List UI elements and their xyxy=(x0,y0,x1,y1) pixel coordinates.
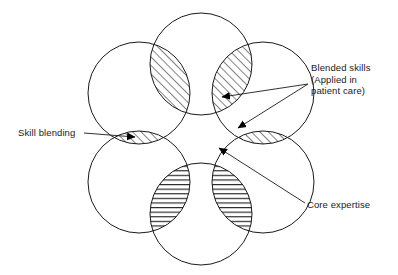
lens-fills xyxy=(88,42,314,265)
blended-skills-line-2: (Applied in xyxy=(311,74,371,86)
lens-top-right xyxy=(212,42,314,144)
blended-skills-line-3: patient care) xyxy=(311,85,371,97)
blended-skills-line-1: Blended skills xyxy=(311,62,371,74)
leader-blended-skills-right xyxy=(238,84,308,128)
label-skill-blending: Skill blending xyxy=(18,127,75,139)
leader-lines xyxy=(84,84,308,203)
label-core-expertise: Core expertise xyxy=(307,199,370,211)
lens-top-left xyxy=(88,42,190,144)
label-blended-skills: Blended skills (Applied in patient care) xyxy=(311,62,371,97)
diagram-canvas: Blended skills (Applied in patient care)… xyxy=(0,0,398,275)
